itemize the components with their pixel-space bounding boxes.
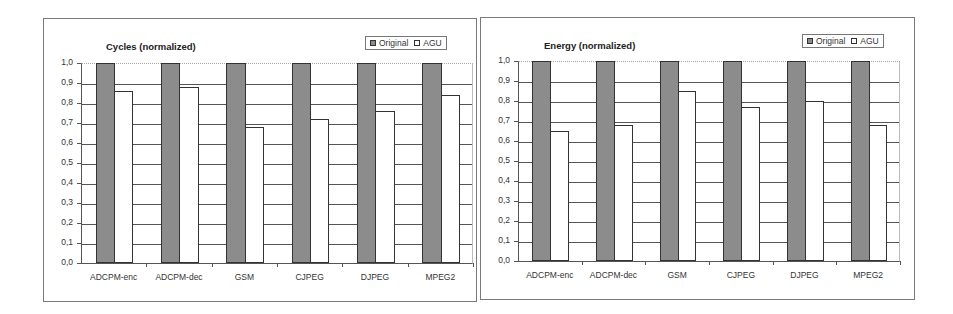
gridline: [82, 244, 472, 245]
gridline: [519, 142, 899, 143]
x-category-label: CJPEG: [277, 272, 342, 282]
y-tick-mark: [77, 83, 81, 84]
bar-original: [96, 63, 115, 263]
gridline: [82, 124, 472, 125]
bar-original: [787, 61, 806, 261]
x-category-label: MPEG2: [408, 272, 473, 282]
y-tick-mark: [77, 143, 81, 144]
y-tick-label: 0,8: [45, 97, 73, 107]
y-tick-mark: [514, 181, 518, 182]
y-tick-mark: [514, 241, 518, 242]
y-tick-label: 0,2: [482, 215, 510, 225]
x-category-label: DJPEG: [342, 272, 407, 282]
y-tick-label: 0,4: [482, 175, 510, 185]
gridline: [82, 144, 472, 145]
x-tick-mark: [408, 263, 409, 267]
y-tick-mark: [514, 101, 518, 102]
y-tick-mark: [514, 121, 518, 122]
y-tick-mark: [77, 263, 81, 264]
bar-original: [723, 61, 742, 261]
x-category-label: GSM: [645, 270, 709, 280]
y-tick-mark: [514, 221, 518, 222]
x-category-label: ADCPM-enc: [518, 270, 582, 280]
y-tick-mark: [77, 123, 81, 124]
y-tick-label: 0,6: [482, 135, 510, 145]
y-tick-mark: [77, 103, 81, 104]
bar-agu: [179, 87, 198, 263]
gridline: [519, 182, 899, 183]
gridline: [82, 204, 472, 205]
y-tick-mark: [514, 261, 518, 262]
y-tick-label: 0,3: [45, 197, 73, 207]
bar-original: [422, 63, 441, 263]
y-tick-label: 0,5: [482, 155, 510, 165]
x-category-label: ADCPM-dec: [146, 272, 211, 282]
bar-original: [596, 61, 615, 261]
y-tick-label: 0,0: [482, 255, 510, 265]
gridline: [519, 242, 899, 243]
y-tick-mark: [514, 141, 518, 142]
y-tick-mark: [77, 203, 81, 204]
x-tick-mark: [146, 263, 147, 267]
bar-agu: [441, 95, 460, 263]
y-tick-label: 0,3: [482, 195, 510, 205]
x-category-label: ADCPM-dec: [582, 270, 646, 280]
cycles-chart-panel: Cycles (normalized) Original AGU 0,00,10…: [43, 18, 477, 302]
y-tick-mark: [77, 243, 81, 244]
energy-chart-panel: Energy (normalized) Original AGU 0,00,10…: [480, 17, 915, 300]
y-tick-label: 0,8: [482, 95, 510, 105]
x-tick-mark: [277, 263, 278, 267]
x-category-label: MPEG2: [836, 270, 900, 280]
x-tick-mark: [900, 261, 901, 265]
gridline: [82, 104, 472, 105]
bar-original: [851, 61, 870, 261]
y-tick-label: 0,9: [45, 77, 73, 87]
bar-agu: [741, 107, 760, 261]
y-tick-label: 1,0: [45, 57, 73, 67]
bar-original: [292, 63, 311, 263]
y-tick-label: 0,5: [45, 157, 73, 167]
x-category-label: DJPEG: [773, 270, 837, 280]
x-category-label: GSM: [212, 272, 277, 282]
y-tick-label: 0,6: [45, 137, 73, 147]
cycles-plot: 0,00,10,20,30,40,50,60,70,80,91,0ADCPM-e…: [44, 19, 478, 303]
bar-agu: [245, 127, 264, 263]
gridline: [82, 224, 472, 225]
bar-agu: [114, 91, 133, 263]
gridline: [519, 202, 899, 203]
x-tick-mark: [342, 263, 343, 267]
gridline: [519, 102, 899, 103]
gridline: [519, 82, 899, 83]
y-tick-label: 0,1: [482, 235, 510, 245]
x-tick-mark: [709, 261, 710, 265]
bar-original: [532, 61, 551, 261]
y-tick-mark: [514, 81, 518, 82]
x-category-label: CJPEG: [709, 270, 773, 280]
bar-original: [357, 63, 376, 263]
bar-agu: [310, 119, 329, 263]
y-tick-label: 0,0: [45, 257, 73, 267]
y-tick-mark: [77, 183, 81, 184]
y-tick-label: 1,0: [482, 55, 510, 65]
bar-original: [161, 63, 180, 263]
bar-agu: [550, 131, 569, 261]
plot-area: [518, 61, 900, 262]
bar-agu: [375, 111, 394, 263]
gridline: [519, 162, 899, 163]
x-category-label: ADCPM-enc: [81, 272, 146, 282]
y-tick-mark: [514, 61, 518, 62]
y-tick-mark: [77, 223, 81, 224]
y-tick-label: 0,2: [45, 217, 73, 227]
y-tick-mark: [514, 201, 518, 202]
y-tick-mark: [77, 63, 81, 64]
x-tick-mark: [212, 263, 213, 267]
x-tick-mark: [773, 261, 774, 265]
x-tick-mark: [836, 261, 837, 265]
bar-original: [226, 63, 245, 263]
gridline: [519, 222, 899, 223]
y-tick-label: 0,7: [482, 115, 510, 125]
x-tick-mark: [645, 261, 646, 265]
bar-original: [660, 61, 679, 261]
gridline: [82, 184, 472, 185]
gridline: [519, 122, 899, 123]
